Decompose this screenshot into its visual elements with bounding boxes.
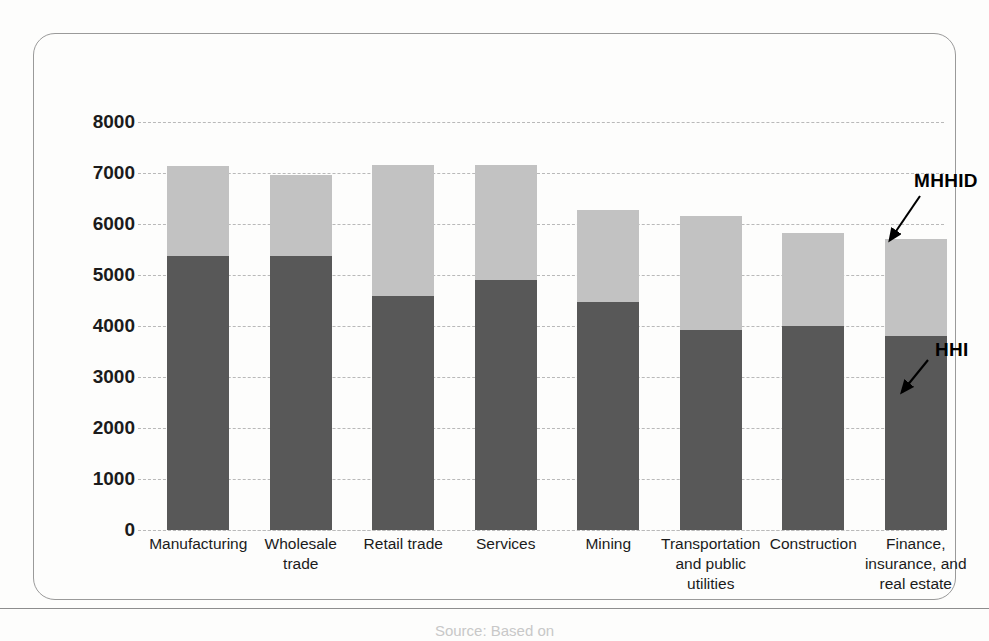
bar-series-group: [147, 122, 967, 530]
axis-baseline: [138, 530, 944, 531]
x-axis-label-line: real estate: [841, 574, 989, 594]
y-tick-label: 3000: [39, 366, 135, 388]
plot-area: 800070006000500040003000200010000 Manufa…: [147, 122, 967, 530]
bar-column[interactable]: [167, 166, 229, 530]
annotation-mhhid-arrow: [860, 190, 930, 260]
y-tick-label: 0: [39, 519, 135, 541]
chart-frame: 800070006000500040003000200010000 Manufa…: [33, 33, 956, 600]
bar-column[interactable]: [270, 175, 332, 530]
bar-segment-hhi[interactable]: [475, 280, 537, 530]
x-axis-label-line: Finance,: [841, 534, 989, 554]
bar-segment-mhhid[interactable]: [475, 165, 537, 279]
x-axis-label: Finance,insurance, andreal estate: [841, 534, 989, 594]
y-tick-label: 5000: [39, 264, 135, 286]
y-tick-label: 2000: [39, 417, 135, 439]
x-axis-label-line: insurance, and: [841, 554, 989, 574]
bar-segment-hhi[interactable]: [372, 296, 434, 530]
y-tick-label: 4000: [39, 315, 135, 337]
source-note: Source: Based on: [0, 622, 989, 641]
y-tick-label: 6000: [39, 213, 135, 235]
footer-rule: [0, 608, 989, 609]
annotation-hhi-label: HHI: [935, 339, 969, 361]
x-axis-label-line: utilities: [636, 574, 786, 594]
x-axis-label-line: and public: [636, 554, 786, 574]
bar-segment-hhi[interactable]: [167, 256, 229, 530]
bar-segment-hhi[interactable]: [577, 302, 639, 530]
bar-segment-mhhid[interactable]: [270, 175, 332, 256]
bar-segment-hhi[interactable]: [782, 326, 844, 530]
bar-column[interactable]: [475, 165, 537, 530]
annotation-mhhid-label: MHHID: [914, 170, 978, 192]
bar-segment-mhhid[interactable]: [372, 165, 434, 296]
bar-segment-hhi[interactable]: [270, 256, 332, 530]
y-tick-label: 1000: [39, 468, 135, 490]
x-axis-label-line: trade: [226, 554, 376, 574]
bar-column[interactable]: [782, 233, 844, 530]
annotation-hhi-arrow: [876, 356, 936, 416]
bar-segment-mhhid[interactable]: [680, 216, 742, 330]
y-tick-label: 7000: [39, 162, 135, 184]
bar-column[interactable]: [577, 210, 639, 530]
bar-segment-hhi[interactable]: [680, 330, 742, 530]
bar-segment-mhhid[interactable]: [782, 233, 844, 326]
bar-segment-mhhid[interactable]: [577, 210, 639, 302]
bar-segment-mhhid[interactable]: [167, 166, 229, 256]
bar-column[interactable]: [372, 165, 434, 530]
y-tick-label: 8000: [39, 111, 135, 133]
bar-column[interactable]: [680, 216, 742, 530]
